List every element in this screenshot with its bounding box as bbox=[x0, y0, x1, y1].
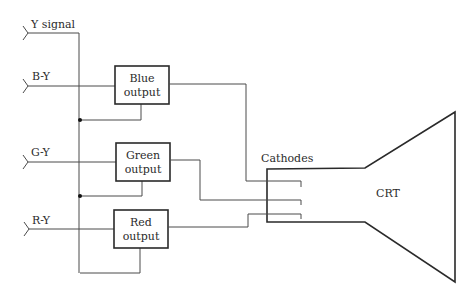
red-output-line1: Red bbox=[130, 216, 152, 229]
junction-dot bbox=[78, 118, 82, 122]
green-output-line2: output bbox=[125, 163, 162, 176]
b-y-label: B-Y bbox=[32, 70, 51, 83]
video-output-diagram: Y signal B-Y G-Y R-Y Blue output Green o… bbox=[0, 0, 475, 295]
red-feedback-wire bbox=[80, 248, 140, 273]
green-feedback-wire bbox=[80, 181, 142, 196]
crt-label: CRT bbox=[376, 187, 401, 200]
r-y-label: R-Y bbox=[32, 214, 51, 227]
blue-output-line1: Blue bbox=[129, 72, 154, 85]
input-b-y: B-Y bbox=[23, 70, 115, 93]
input-r-y: R-Y bbox=[24, 214, 114, 236]
blue-output-line2: output bbox=[124, 86, 161, 99]
blue-output-block: Blue output bbox=[115, 66, 169, 104]
connector-chevron-icon bbox=[23, 79, 28, 93]
green-output-block: Green output bbox=[116, 143, 170, 181]
connector-chevron-icon bbox=[24, 222, 29, 236]
cathodes-label: Cathodes bbox=[261, 152, 314, 165]
g-y-label: G-Y bbox=[31, 146, 50, 159]
y-signal-label: Y signal bbox=[30, 18, 76, 31]
crt-tube bbox=[267, 112, 455, 282]
connector-chevron-icon bbox=[23, 26, 28, 40]
red-output-line2: output bbox=[123, 230, 160, 243]
junction-dot bbox=[78, 194, 82, 198]
blue-feedback-wire bbox=[80, 104, 141, 120]
input-g-y: G-Y bbox=[23, 146, 116, 169]
red-output-block: Red output bbox=[114, 210, 168, 248]
green-output-line1: Green bbox=[126, 149, 160, 162]
connector-chevron-icon bbox=[23, 155, 28, 169]
